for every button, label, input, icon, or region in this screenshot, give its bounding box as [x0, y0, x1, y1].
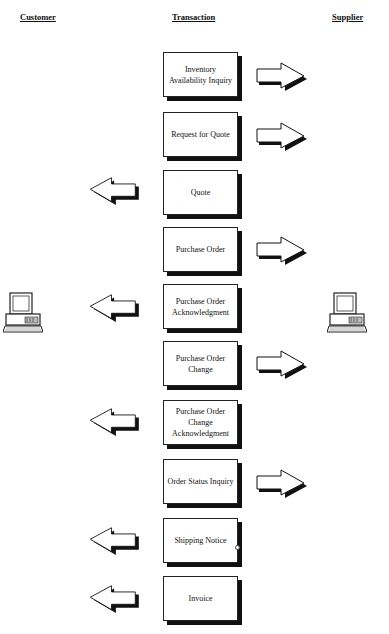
- transaction-label: Shipping Notice: [174, 535, 226, 546]
- transaction-box-purchase-order: Purchase Order: [163, 227, 238, 272]
- column-header-transaction: Transaction: [172, 12, 215, 22]
- arrow-left-icon: [89, 584, 141, 614]
- transaction-label: Order Status Inquiry: [168, 476, 234, 487]
- arrow-left-icon: [89, 526, 141, 556]
- transaction-box-shipping-notice: Shipping Notice: [163, 518, 238, 563]
- arrow-left-icon: [89, 407, 141, 437]
- arrow-left-icon: [89, 176, 141, 206]
- arrow-left-icon: [89, 293, 141, 323]
- column-header-supplier: Supplier: [332, 12, 363, 22]
- transaction-label: Purchase OrderChangeAcknowledgment: [172, 406, 229, 439]
- arrow-right-icon: [256, 236, 308, 266]
- transaction-label: Purchase OrderChange: [176, 353, 226, 375]
- transaction-label: InventoryAvailability Inquiry: [169, 64, 232, 86]
- arrow-right-icon: [256, 122, 308, 152]
- customer-computer-icon: [3, 290, 43, 334]
- transaction-box-order-status-inquiry: Order Status Inquiry: [163, 459, 238, 504]
- transaction-box-inventory-availability-inquiry: InventoryAvailability Inquiry: [163, 52, 238, 97]
- transaction-label: Request for Quote: [171, 129, 230, 140]
- arrow-right-icon: [256, 469, 308, 499]
- transaction-label: Quote: [191, 187, 211, 198]
- transaction-box-quote: Quote: [163, 170, 238, 215]
- supplier-computer-icon: [327, 290, 367, 334]
- arrow-right-icon: [256, 62, 308, 92]
- transaction-box-invoice: Invoice: [163, 576, 238, 621]
- transaction-box-purchase-order-change: Purchase OrderChange: [163, 341, 238, 386]
- arrow-right-icon: [256, 350, 308, 380]
- transaction-box-request-for-quote: Request for Quote: [163, 112, 238, 157]
- connector-dot: [235, 545, 240, 550]
- transaction-label: Purchase Order: [176, 244, 226, 255]
- transaction-label: Invoice: [189, 593, 213, 604]
- transaction-box-purchase-order-change-acknowledgment: Purchase OrderChangeAcknowledgment: [163, 400, 238, 445]
- transaction-label: Purchase OrderAcknowledgment: [172, 296, 229, 318]
- column-header-customer: Customer: [20, 12, 56, 22]
- transaction-box-purchase-order-acknowledgment: Purchase OrderAcknowledgment: [163, 284, 238, 329]
